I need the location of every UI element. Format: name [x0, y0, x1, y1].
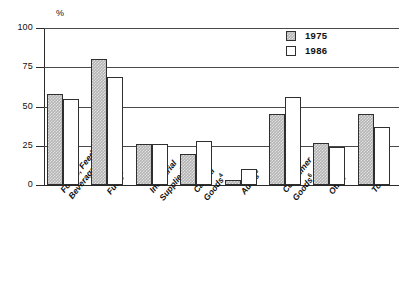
- bar-1975: [358, 114, 374, 185]
- bar-group: [47, 28, 79, 185]
- bar-1986: [285, 97, 301, 185]
- bar-1975: [91, 59, 107, 185]
- y-tick-label-100: 100: [0, 23, 33, 32]
- y-tick-mark-100: [36, 28, 44, 29]
- bar-group: [180, 28, 212, 185]
- legend-item-1986: 1986: [286, 43, 327, 58]
- bar-group: [136, 28, 168, 185]
- bar-1975: [47, 94, 63, 185]
- y-tick-mark-0: [36, 185, 44, 186]
- bar-1986: [241, 169, 257, 185]
- y-tick-label-50: 50: [0, 102, 33, 111]
- legend-item-1975: 1975: [286, 28, 327, 43]
- legend-swatch-1986: [286, 46, 296, 56]
- bar-1986: [196, 141, 212, 185]
- y-tick-mark-75: [36, 67, 44, 68]
- bar-1986: [63, 99, 79, 185]
- bar-chart: % 1007550250 1975 1986 Foods, Feeds, and…: [0, 0, 416, 291]
- bar-group: [358, 28, 390, 185]
- bar-1975: [313, 143, 329, 185]
- bar-1975: [180, 154, 196, 185]
- bar-1975: [136, 144, 152, 185]
- y-tick-mark-25: [36, 146, 44, 147]
- y-tick-label-0: 0: [0, 180, 33, 189]
- bar-1975: [225, 180, 241, 185]
- plot-area: [44, 28, 399, 185]
- y-tick-mark-50: [36, 107, 44, 108]
- legend-label-1986: 1986: [305, 45, 327, 56]
- y-tick-label-75: 75: [0, 62, 33, 71]
- legend: 1975 1986: [286, 28, 327, 58]
- bar-group: [225, 28, 257, 185]
- legend-swatch-1975: [286, 31, 296, 41]
- bar-1986: [152, 144, 168, 185]
- bar-1986: [374, 127, 390, 185]
- bar-1975: [269, 114, 285, 185]
- y-tick-label-25: 25: [0, 141, 33, 150]
- bar-1986: [329, 147, 345, 185]
- bar-1986: [107, 77, 123, 185]
- legend-label-1975: 1975: [305, 30, 327, 41]
- bar-group: [91, 28, 123, 185]
- y-axis-unit-label: %: [56, 8, 64, 18]
